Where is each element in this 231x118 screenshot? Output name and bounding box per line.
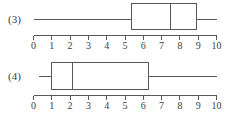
boxplot-panel-3: (3) 012345678910 [0, 0, 231, 55]
axis-tick-label: 2 [68, 100, 73, 111]
axis-tick-label: 6 [141, 40, 146, 51]
axis-tick-label: 10 [212, 40, 222, 51]
axis-tick-label: 5 [123, 100, 128, 111]
box-iqr [52, 63, 149, 90]
axis-tick-label: 7 [159, 100, 164, 111]
axis-tick-label: 6 [141, 100, 146, 111]
axis-tick-label: 4 [104, 40, 109, 51]
axis-tick-label: 4 [104, 100, 109, 111]
axis-tick-label: 8 [177, 100, 182, 111]
axis-tick-label: 10 [212, 100, 222, 111]
axis-tick-label: 3 [86, 100, 91, 111]
axis-tick-label: 1 [49, 100, 54, 111]
axis-tick-label: 0 [31, 100, 36, 111]
axis-tick-label: 0 [31, 40, 36, 51]
axis-tick-label: 8 [177, 40, 182, 51]
series-label-3: (3) [8, 14, 21, 25]
axis-tick-label: 9 [196, 40, 201, 51]
axis-tick-label: 2 [68, 40, 73, 51]
axis-tick-label: 7 [159, 40, 164, 51]
boxplot-figure: (3) 012345678910 (4) 012345678910 [0, 0, 231, 118]
axis-tick-label: 1 [49, 40, 54, 51]
series-label-4: (4) [8, 71, 21, 82]
box-iqr [131, 4, 196, 30]
boxplot-svg-4: 012345678910 [0, 57, 231, 118]
axis-tick-label: 9 [196, 100, 201, 111]
boxplot-panel-4: (4) 012345678910 [0, 57, 231, 118]
boxplot-svg-3: 012345678910 [0, 0, 231, 55]
axis-tick-label: 3 [86, 40, 91, 51]
axis-tick-label: 5 [123, 40, 128, 51]
